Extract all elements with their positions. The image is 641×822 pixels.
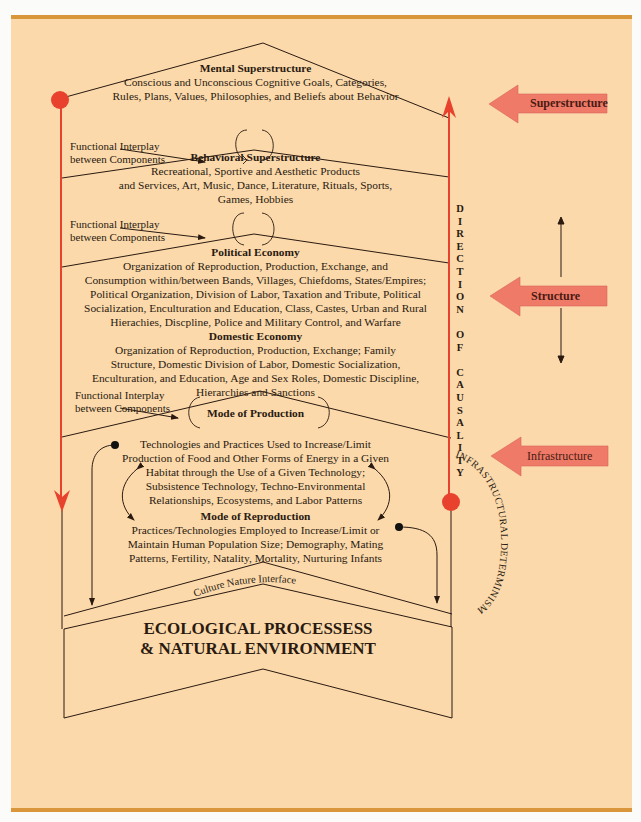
domestic-line-3: Enculturation, and Education, Age and Se… [62,371,449,385]
political-line-2: Consumption within/between Bands, Villag… [62,273,449,287]
mental-line-1: Conscious and Unconscious Cognitive Goal… [62,75,449,89]
behavioral-line-2: and Services, Art, Music, Dance, Literat… [62,178,449,192]
production-line-5: Relationships, Ecosystems, and Labor Pat… [62,493,449,507]
production-line-3: Habitat through the Use of a Given Techn… [62,465,449,479]
superstructure-label: Superstructure [530,96,608,111]
political-line-1: Organization of Reproduction, Production… [62,259,449,273]
direction-of-causality-label: DIRECTION OF CAUSALITY [453,203,467,480]
production-line-4: Subsistence Technology, Techno-Environme… [62,479,449,493]
structure-label: Structure [531,289,580,304]
interplay-label-2: Functional Interplay between Components [70,218,165,244]
reproduction-block: Mode of Reproduction Practices/Technolog… [62,509,449,565]
political-line-3: Political Organization, Division of Labo… [62,287,449,301]
production-block: Technologies and Practices Used to Incre… [62,437,449,507]
reproduction-line-1: Practices/Technologies Employed to Incre… [62,523,449,537]
mental-title: Mental Superstructure [62,61,449,75]
production-title: Mode of Production [62,406,449,420]
production-line-2: Production of Food and Other Forms of En… [62,451,449,465]
reproduction-line-2: Maintain Human Population Size; Demograp… [62,537,449,551]
ecological-block: ECOLOGICAL PROCESSESS & NATURAL ENVIRONM… [64,619,452,659]
mental-superstructure-block: Mental Superstructure Conscious and Unco… [62,61,449,103]
reproduction-line-3: Patterns, Fertility, Natality, Mortality… [62,551,449,565]
domestic-line-2: Structure, Domestic Division of Labor, D… [62,357,449,371]
behavioral-line-3: Games, Hobbies [62,192,449,206]
behavioral-superstructure-block: Behavioral Superstructure Recreational, … [62,150,449,206]
reproduction-title: Mode of Reproduction [62,509,449,523]
political-economy-block: Political Economy Organization of Reprod… [62,245,449,329]
behavioral-title: Behavioral Superstructure [62,150,449,164]
interplay-line-1: Functional Interplay [70,218,165,231]
ecological-line-1: ECOLOGICAL PROCESSESS [64,619,452,639]
behavioral-line-1: Recreational, Sportive and Aesthetic Pro… [62,164,449,178]
infrastructure-label: Infrastructure [527,449,592,464]
interplay-line-1: Functional Interplay [75,389,170,402]
domestic-title: Domestic Economy [62,329,449,343]
political-line-5: Hierachies, Discpline, Police and Milita… [62,315,449,329]
political-title: Political Economy [62,245,449,259]
production-line-1: Technologies and Practices Used to Incre… [62,437,449,451]
political-line-4: Socialization, Enculturation and Educati… [62,301,449,315]
ecological-line-2: & NATURAL ENVIRONMENT [64,639,452,659]
domestic-line-1: Organization of Reproduction, Production… [62,343,449,357]
interplay-line-2: between Components [70,231,165,244]
mental-line-2: Rules, Plans, Values, Philosophies, and … [62,89,449,103]
